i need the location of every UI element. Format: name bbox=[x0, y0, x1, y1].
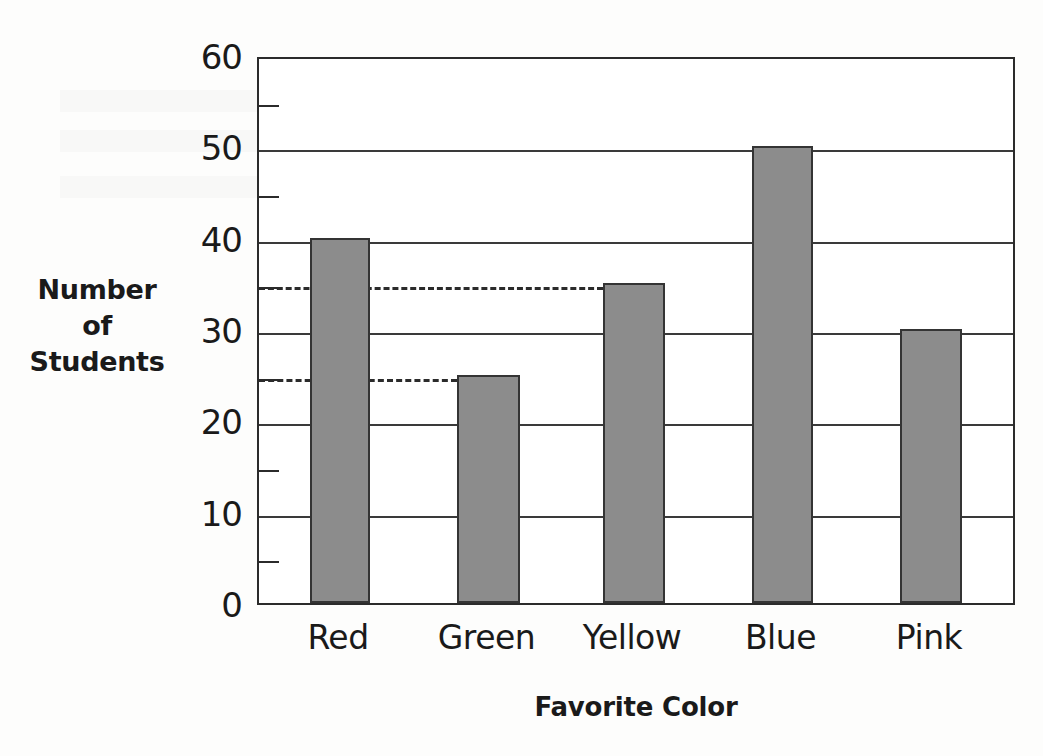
bar-pink bbox=[900, 329, 962, 603]
y-axis-title-line-3: Students bbox=[8, 344, 186, 380]
y-axis-title-line-2: of bbox=[8, 308, 186, 344]
gridline-50 bbox=[259, 150, 1013, 152]
y-axis-title: Number of Students bbox=[8, 272, 186, 380]
bar-blue bbox=[752, 146, 813, 603]
bar-chart-figure: Number of Students 0102030405060 RedGree… bbox=[0, 0, 1043, 756]
y-axis-title-line-1: Number bbox=[8, 272, 186, 308]
y-tick-label-30: 30 bbox=[184, 314, 242, 348]
gridline-40 bbox=[259, 242, 1013, 244]
y-tick-label-40: 40 bbox=[184, 223, 242, 257]
y-tick-label-20: 20 bbox=[184, 405, 242, 439]
y-minor-tick-5 bbox=[259, 561, 279, 563]
y-tick-label-50: 50 bbox=[184, 131, 242, 165]
plot-area bbox=[257, 57, 1015, 605]
x-axis-tick-labels: RedGreenYellowBluePink bbox=[257, 616, 1015, 666]
bar-red bbox=[310, 238, 370, 603]
y-tick-label-0: 0 bbox=[184, 588, 242, 622]
x-axis-title: Favorite Color bbox=[257, 692, 1015, 722]
plot-inner bbox=[259, 59, 1013, 603]
y-axis-tick-labels: 0102030405060 bbox=[180, 57, 242, 605]
y-minor-tick-15 bbox=[259, 470, 279, 472]
y-minor-tick-55 bbox=[259, 105, 279, 107]
y-tick-label-60: 60 bbox=[184, 40, 242, 74]
x-tick-label-pink: Pink bbox=[839, 616, 1019, 660]
bar-yellow bbox=[603, 283, 665, 603]
y-tick-label-10: 10 bbox=[184, 497, 242, 531]
bar-green bbox=[457, 375, 520, 603]
y-minor-tick-45 bbox=[259, 196, 279, 198]
